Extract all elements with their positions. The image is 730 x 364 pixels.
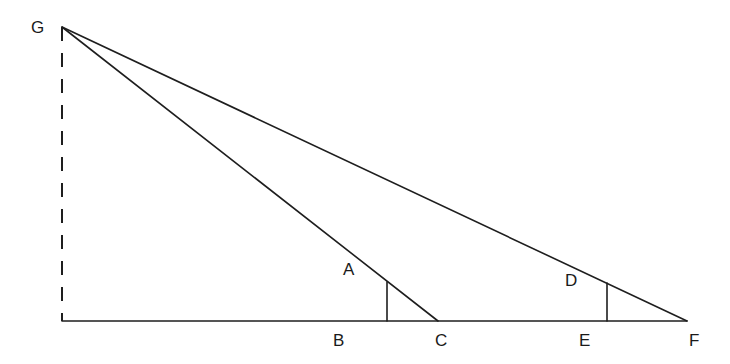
label-D: D [565,271,577,290]
hypotenuse-GC [62,27,438,321]
label-G: G [31,18,44,37]
label-E: E [579,331,590,350]
hypotenuse-GF [62,27,687,321]
similar-triangles-diagram: G A B C D E F [0,0,730,364]
label-F: F [689,331,699,350]
label-B: B [333,331,344,350]
label-A: A [343,260,355,279]
point-labels: G A B C D E F [31,18,699,350]
segments [62,27,687,321]
label-C: C [435,331,447,350]
